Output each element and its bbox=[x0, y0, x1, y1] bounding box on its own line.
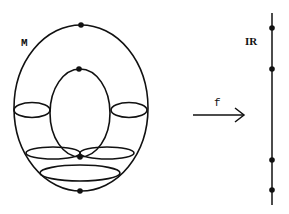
map-arrow bbox=[193, 108, 244, 122]
left-meridian bbox=[14, 103, 50, 118]
manifold-label: M bbox=[21, 38, 28, 49]
inner-outline bbox=[50, 69, 110, 157]
critical-value-lower-saddle bbox=[269, 157, 275, 163]
map-label: f bbox=[214, 98, 221, 109]
max-point bbox=[78, 22, 84, 28]
saddle-level-right bbox=[80, 147, 134, 159]
torus-morse-diagram bbox=[0, 0, 289, 214]
critical-value-min bbox=[269, 187, 275, 193]
lower-saddle-point bbox=[77, 154, 83, 160]
upper-saddle-point bbox=[76, 66, 82, 72]
critical-value-upper-saddle bbox=[269, 66, 275, 72]
codomain-label: IR bbox=[245, 36, 257, 47]
right-meridian bbox=[111, 103, 147, 118]
critical-points bbox=[76, 22, 84, 194]
lower-level-circle bbox=[40, 165, 120, 181]
min-point bbox=[77, 188, 83, 194]
critical-value-max bbox=[269, 25, 275, 31]
torus bbox=[14, 25, 148, 191]
real-line bbox=[269, 13, 275, 205]
outer-outline bbox=[14, 25, 148, 191]
saddle-level-left bbox=[26, 147, 80, 159]
